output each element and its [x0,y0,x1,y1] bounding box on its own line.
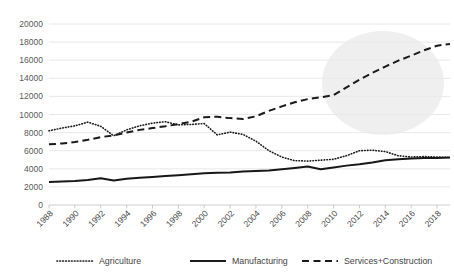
y-axis-tick-label: 12000 [19,91,43,101]
y-axis-tick-label: 6000 [24,146,43,156]
x-axis-tick-label: 1998 [164,208,185,229]
x-axis-tick-label: 2018 [423,208,444,229]
x-axis-tick-label: 2014 [371,208,392,229]
highlight-circle-annotation [322,31,444,135]
x-axis-tick-label: 1988 [34,208,55,229]
legend-item-services-construction[interactable]: Services+Construction [302,256,432,266]
x-axis-tick-label: 2010 [319,208,340,229]
series-line-manufacturing [49,157,450,181]
y-axis-tick-label: 10000 [19,110,43,120]
y-axis-tick-label: 0 [38,200,43,210]
y-axis-tick-label: 2000 [24,182,43,192]
y-axis-tick-label: 16000 [19,55,43,65]
legend-item-manufacturing[interactable]: Manufacturing [190,256,288,266]
line-chart: 2000018000160001400012000100008000600040… [0,0,454,277]
y-axis-tick-label: 8000 [24,128,43,138]
x-axis-tick-label: 2000 [190,208,211,229]
legend-label: Agriculture [99,256,141,266]
y-axis-tick-label: 20000 [19,19,43,29]
legend-label: Services+Construction [344,256,432,266]
y-axis-tick-label: 14000 [19,73,43,83]
legend-item-agriculture[interactable]: Agriculture [57,256,141,266]
x-axis-tick-label: 1994 [112,208,133,229]
y-axis-tick-label: 4000 [24,164,43,174]
x-axis-tick-label: 2016 [397,208,418,229]
x-axis-tick-label: 2002 [216,208,237,229]
chart-container: 2000018000160001400012000100008000600040… [0,0,454,277]
x-axis-tick-label: 2012 [345,208,366,229]
x-axis-tick-label: 1990 [60,208,81,229]
legend-label: Manufacturing [232,256,288,266]
x-axis-tick-label: 2006 [267,208,288,229]
x-axis-tick-label: 2004 [241,208,262,229]
x-axis-tick-label: 1992 [86,208,107,229]
x-axis-tick-label: 1996 [138,208,159,229]
x-axis-tick-label: 2008 [293,208,314,229]
y-axis-tick-label: 18000 [19,37,43,47]
chart-title [0,0,454,9]
